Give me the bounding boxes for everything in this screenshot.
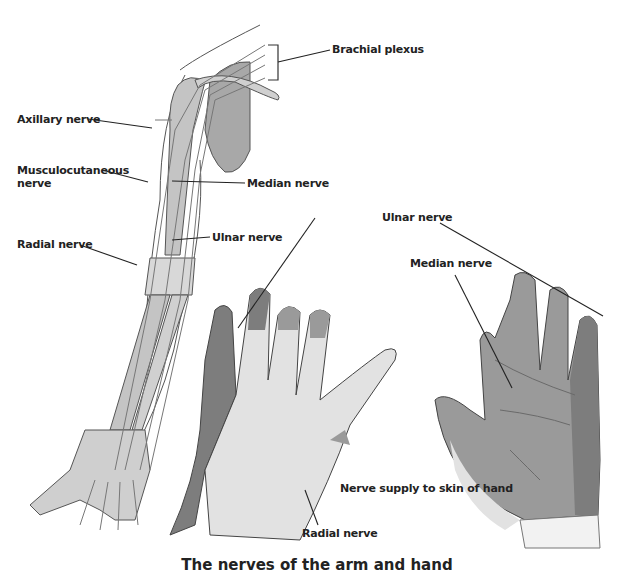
label-radial-nerve-hand: Radial nerve	[302, 527, 378, 540]
label-radial-nerve-arm: Radial nerve	[17, 238, 93, 251]
label-axillary-nerve: Axillary nerve	[17, 113, 100, 126]
label-ulnar-nerve-hand: Ulnar nerve	[382, 211, 452, 224]
label-brachial-plexus: Brachial plexus	[332, 43, 424, 56]
hand-dorsal	[170, 288, 396, 540]
label-ulnar-nerve-arm: Ulnar nerve	[212, 231, 282, 244]
label-median-nerve-arm: Median nerve	[247, 177, 329, 190]
label-musculocutaneous-nerve-line1: Musculocutaneous	[17, 164, 129, 177]
label-musculocutaneous-nerve-line2: nerve	[17, 177, 51, 190]
label-nerve-supply-skin: Nerve supply to skin of hand	[340, 482, 513, 495]
figure-caption: The nerves of the arm and hand	[0, 556, 634, 574]
label-median-nerve-hand: Median nerve	[410, 257, 492, 270]
hand-palmar	[435, 272, 600, 548]
